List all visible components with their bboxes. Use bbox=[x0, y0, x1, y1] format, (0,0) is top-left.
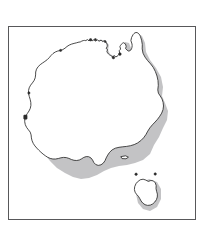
australia-outline-map bbox=[9, 27, 195, 219]
kangaroo-island-outline bbox=[121, 156, 128, 159]
island-marker-tiwi bbox=[89, 39, 92, 42]
island-marker-groote bbox=[112, 56, 115, 59]
island-marker-wessel bbox=[104, 41, 106, 43]
island-marker-gulf-east bbox=[119, 53, 122, 56]
island-marker-kimberley bbox=[60, 49, 62, 51]
island-marker-northwest-cape bbox=[28, 92, 30, 94]
island-marker-king-island bbox=[135, 173, 137, 175]
island-marker-shark-bay bbox=[24, 115, 27, 119]
island-marker-melville bbox=[94, 39, 96, 41]
figure-canvas bbox=[0, 0, 206, 229]
map-frame-border bbox=[8, 26, 196, 220]
island-marker-flinders-island bbox=[154, 173, 156, 175]
south-australia-gulfs-group bbox=[121, 156, 128, 159]
